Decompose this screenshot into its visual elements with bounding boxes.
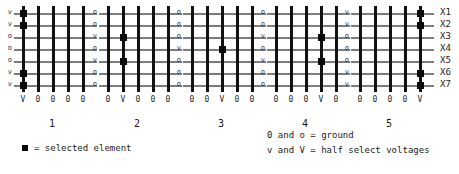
column-voltage-label: 0 [353,96,367,104]
vertical-wire [290,6,293,92]
row-voltage-label: o [2,45,12,52]
row-axis-label-x1: X1 [440,8,451,17]
row-voltage-label: v [2,81,12,88]
vertical-wire [37,6,40,92]
row-voltage-label: v [255,57,265,64]
column-voltage-label: V [16,96,30,104]
row-voltage-label: v [87,57,97,64]
row-voltage-label: o [87,69,97,76]
row-voltage-label: o [171,81,181,88]
column-voltage-label: 0 [284,96,298,104]
row-voltage-label: o [339,57,349,64]
column-voltage-label: 0 [185,96,199,104]
vertical-wire [359,6,362,92]
vertical-wire [67,6,70,92]
row-axis-label-x2: X2 [440,20,451,29]
row-voltage-label: v [339,81,349,88]
vertical-wire [22,6,25,92]
row-voltage-label: o [255,69,265,76]
selected-element [318,34,325,41]
column-voltage-label: 0 [131,96,145,104]
vertical-wire [374,6,377,92]
vertical-wire [236,6,239,92]
row-voltage-label: v [339,21,349,28]
column-voltage-label: 0 [31,96,45,104]
selected-element [20,10,27,17]
row-voltage-label: o [255,45,265,52]
column-voltage-label: 0 [161,96,175,104]
row-voltage-label: v [339,9,349,16]
legend-selected-element-label: = selected element [34,142,132,154]
row-voltage-label: o [171,21,181,28]
row-voltage-label: o [87,81,97,88]
legend-voltage-key: 0 and o = ground v and V = half select v… [267,128,430,158]
row-axis-label-x7: X7 [440,80,451,89]
column-voltage-label: 0 [146,96,160,104]
legend-selected-element: = selected element [22,142,132,154]
column-voltage-label: V [314,96,328,104]
row-voltage-label: o [171,9,181,16]
selected-element [20,70,27,77]
vertical-wire [122,6,125,92]
column-voltage-label: V [413,96,427,104]
row-voltage-label: v [171,45,181,52]
column-voltage-label: 0 [368,96,382,104]
selected-element [417,22,424,29]
vertical-wire [389,6,392,92]
row-voltage-label: o [87,9,97,16]
row-axis-label-x5: X5 [440,56,451,65]
row-voltage-label: v [2,21,12,28]
row-voltage-label: o [255,9,265,16]
column-voltage-label: 0 [398,96,412,104]
vertical-wire [82,6,85,92]
column-voltage-label: 0 [230,96,244,104]
vertical-wire [191,6,194,92]
row-axis-label-x6: X6 [440,68,451,77]
row-axis-label-x4: X4 [440,44,451,53]
selected-element [417,82,424,89]
row-voltage-label: v [2,9,12,16]
row-voltage-label: o [171,57,181,64]
vertical-wire [137,6,140,92]
row-voltage-label: o [171,33,181,40]
column-voltage-label: 0 [200,96,214,104]
column-voltage-label: 0 [61,96,75,104]
column-voltage-label: 0 [46,96,60,104]
row-voltage-label: v [87,33,97,40]
vertical-wire [320,6,323,92]
vertical-wire [419,6,422,92]
row-axis-label-x3: X3 [440,32,451,41]
row-voltage-label: o [87,21,97,28]
legend-ground-label: 0 and o = ground [267,128,430,143]
selected-element [20,22,27,29]
selected-element-swatch-icon [22,145,28,151]
panel-number-1: 1 [37,119,67,129]
vertical-wire [107,6,110,92]
row-voltage-label: o [2,57,12,64]
selected-element [120,58,127,65]
vertical-wire [167,6,170,92]
vertical-wire [206,6,209,92]
row-voltage-label: o [255,21,265,28]
vertical-wire [52,6,55,92]
vertical-wire [152,6,155,92]
column-voltage-label: 0 [101,96,115,104]
selected-element [417,70,424,77]
selected-element [219,46,226,53]
vertical-wire [251,6,254,92]
column-voltage-label: 0 [245,96,259,104]
legend-half-select-label: v and V = half select voltages [267,143,430,158]
row-voltage-label: o [87,45,97,52]
vertical-wire [275,6,278,92]
column-voltage-label: 0 [299,96,313,104]
row-voltage-label: o [339,45,349,52]
row-voltage-label: o [339,33,349,40]
row-voltage-label: o [171,69,181,76]
panel-number-2: 2 [122,119,152,129]
column-voltage-label: 0 [383,96,397,104]
column-voltage-label: 0 [76,96,90,104]
column-voltage-label: V [116,96,130,104]
vertical-wire [305,6,308,92]
row-voltage-label: v [2,69,12,76]
vertical-wire [404,6,407,92]
